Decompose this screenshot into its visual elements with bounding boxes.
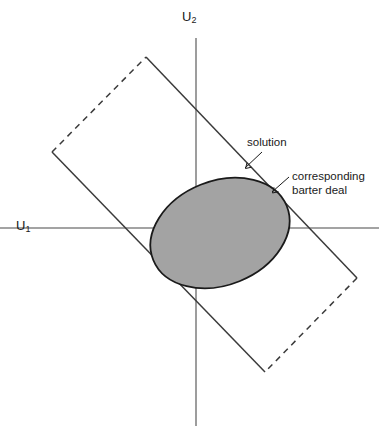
rect-edge-dashed-upper-left <box>52 57 146 152</box>
x-axis-label-subscript: 1 <box>25 224 30 234</box>
diagram-canvas <box>0 0 381 435</box>
barter-deal-annotation-line1: corresponding <box>292 170 365 182</box>
barter-deal-leader-line <box>272 177 289 192</box>
rect-edge-dashed-lower-right <box>265 278 357 372</box>
solution-annotation-text: solution <box>247 136 287 148</box>
bargaining-diagram: U2 U1 solution correspondingbarter deal <box>0 0 381 435</box>
x-axis-label: U1 <box>16 219 30 232</box>
solution-annotation: solution <box>247 136 287 150</box>
y-axis-label-text: U <box>182 9 191 24</box>
y-axis-label: U2 <box>182 10 196 23</box>
barter-deal-annotation: correspondingbarter deal <box>292 170 365 197</box>
x-axis-label-text: U <box>16 218 25 233</box>
feasible-region-ellipse <box>134 158 306 308</box>
solution-leader-line <box>245 152 262 168</box>
y-axis-label-subscript: 2 <box>191 15 196 25</box>
barter-deal-annotation-line2: barter deal <box>292 184 347 196</box>
